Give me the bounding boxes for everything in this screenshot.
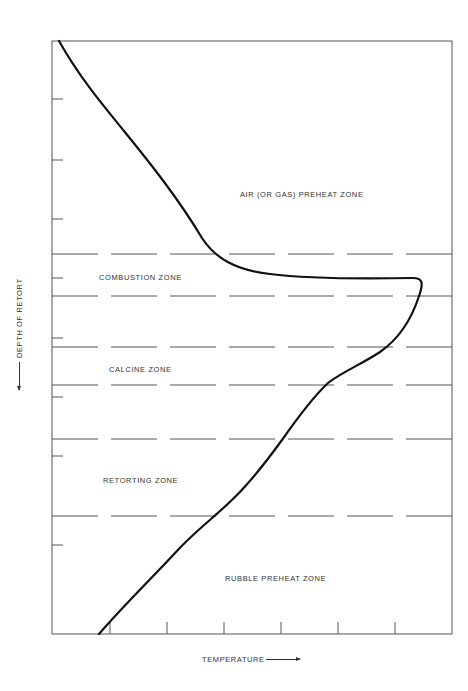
zone-label-combustion: COMBUSTION ZONE — [99, 273, 182, 282]
x-axis-label-text: TEMPERATURE — [202, 655, 265, 664]
plot-frame — [52, 41, 452, 634]
chart-plot — [0, 0, 468, 691]
zone-label-air-preheat: AIR (OR GAS) PREHEAT ZONE — [240, 190, 364, 199]
y-axis-label-text: DEPTH OF RETORT — [15, 278, 24, 358]
temperature-profile-curve — [59, 41, 422, 634]
arrow-right-icon — [266, 659, 300, 660]
y-axis-label: DEPTH OF RETORT — [15, 278, 24, 390]
zone-label-calcine: CALCINE ZONE — [109, 365, 172, 374]
x-axis-ticks — [110, 622, 395, 634]
x-axis-label: TEMPERATURE — [202, 655, 300, 664]
y-axis-ticks — [52, 99, 63, 545]
zone-label-rubble-preheat: RUBBLE PREHEAT ZONE — [225, 574, 326, 583]
arrow-down-icon — [19, 362, 20, 390]
zone-label-retorting: RETORTING ZONE — [103, 476, 178, 485]
